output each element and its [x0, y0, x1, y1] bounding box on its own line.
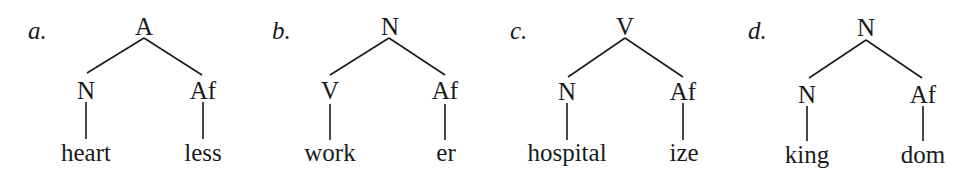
left-node: N	[77, 78, 95, 103]
left-word: king	[785, 142, 829, 167]
root-node: N	[857, 15, 875, 40]
root-node: N	[381, 14, 399, 39]
right-word: less	[184, 140, 222, 165]
right-node: Af	[432, 78, 458, 103]
left-word: heart	[61, 140, 111, 165]
right-node: Af	[910, 82, 936, 107]
tree-label: d.	[748, 18, 767, 43]
tree-label: b.	[272, 18, 291, 43]
left-node: N	[798, 82, 816, 107]
right-word: ize	[669, 140, 698, 165]
left-word: hospital	[527, 140, 606, 165]
right-node: Af	[190, 78, 216, 103]
left-node: V	[321, 78, 339, 103]
tree-label: c.	[510, 18, 527, 43]
root-node: V	[616, 14, 634, 39]
right-node: Af	[670, 79, 696, 104]
root-node: A	[135, 14, 153, 39]
left-node: N	[558, 79, 576, 104]
left-word: work	[304, 140, 355, 165]
right-word: dom	[901, 142, 945, 167]
tree-label: a.	[28, 18, 47, 43]
right-word: er	[436, 140, 455, 165]
